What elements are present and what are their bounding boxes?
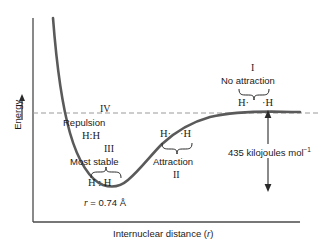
region-two-atom-left: H· <box>160 129 171 140</box>
region-four-species: H:H <box>82 131 100 142</box>
region-two-numeral: II <box>173 170 180 180</box>
y-axis-label: Energy <box>13 85 23 145</box>
brace-region-two <box>162 143 192 154</box>
region-one-title: No attraction <box>221 76 275 86</box>
region-four-title: Repulsion <box>63 118 105 128</box>
region-two-atom-right: ·H <box>180 129 191 140</box>
region-one-numeral: I <box>251 63 254 73</box>
region-one-atom-right: ·H <box>262 98 273 109</box>
x-axis-label: Internuclear distance (r) <box>113 229 213 239</box>
x-axis-label-prefix: Internuclear distance ( <box>113 228 207 239</box>
region-one-atom-left: H· <box>238 98 249 109</box>
bond-length-value: = 0.74 Å <box>88 197 126 208</box>
bond-energy-label: 435 kilojoules mol−1 <box>228 147 311 158</box>
region-three-title: Most stable <box>70 157 119 167</box>
bond-energy-exponent: −1 <box>304 146 311 153</box>
bond-length-label: r = 0.74 Å <box>84 198 126 209</box>
bond-energy-value: 435 <box>228 147 244 158</box>
potential-energy-diagram: Energy Internuclear distance (r) IV Repu… <box>0 0 329 245</box>
bond-energy-unit: kilojoules mol <box>244 147 304 158</box>
x-axis-label-suffix: ) <box>210 228 213 239</box>
region-two-title: Attraction <box>153 157 193 167</box>
region-three-species: H : H <box>88 178 111 189</box>
region-three-numeral: III <box>104 144 114 154</box>
chart-graphics <box>0 0 329 245</box>
region-four-numeral: IV <box>100 104 111 114</box>
